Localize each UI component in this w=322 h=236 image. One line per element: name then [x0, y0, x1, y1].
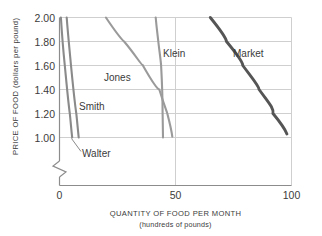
y-tick-label: 1.40 — [35, 84, 56, 96]
series-label-walter: Walter — [82, 148, 111, 159]
y-tick-label: 2.00 — [35, 12, 56, 24]
y-tick-label: 1.00 — [35, 132, 56, 144]
series-label-klein: Klein — [163, 48, 185, 59]
x-tick-label: 100 — [283, 189, 301, 201]
series-label-smith: Smith — [79, 101, 105, 112]
y-axis-title: PRICE OF FOOD (dollars per pound) — [11, 18, 20, 155]
series-label-jones: Jones — [104, 72, 131, 83]
y-tick-label: 1.20 — [35, 108, 56, 120]
x-axis-subtitle: (hundreds of pounds) — [139, 220, 211, 229]
x-axis-title: QUANTITY OF FOOD PER MONTH — [110, 209, 242, 218]
supply-curve-chart: 2.00 1.80 1.60 1.40 1.20 1.00 0 50 100 P… — [0, 0, 322, 236]
y-tick-label: 1.60 — [35, 60, 56, 72]
x-tick-label: 50 — [170, 189, 182, 201]
x-tick-label: 0 — [57, 189, 63, 201]
chart-container: 2.00 1.80 1.60 1.40 1.20 1.00 0 50 100 P… — [0, 0, 322, 236]
series-label-market: Market — [233, 48, 264, 59]
y-tick-label: 1.80 — [35, 36, 56, 48]
